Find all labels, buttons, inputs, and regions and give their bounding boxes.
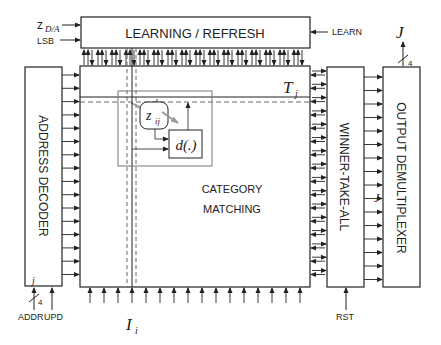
wta-demux-arrows (364, 77, 382, 280)
addr-label: ADDR (18, 312, 44, 322)
learning-refresh-label: LEARNING / REFRESH (125, 26, 264, 41)
rst-input: RST (336, 288, 355, 322)
addr-input: 4 ADDR (18, 288, 44, 322)
learning-bus (84, 50, 302, 65)
winner-take-all-label: WINNER-TAKE-ALL (337, 123, 351, 232)
upd-label: UPD (44, 312, 64, 322)
output-j: 4 J (396, 23, 413, 68)
addr-width-label: 4 (38, 298, 43, 307)
category-matching-array: CATEGORY MATCHING (80, 66, 310, 287)
input-arrows (90, 288, 300, 303)
output-width-label: 4 (408, 59, 413, 68)
upd-input: UPD (44, 288, 64, 322)
zda-label-sub: D/A (44, 24, 60, 34)
zda-input: z D/A (37, 18, 80, 34)
winner-take-all-block: WINNER-TAKE-ALL (327, 67, 364, 287)
learn-label: LEARN (332, 27, 362, 37)
address-decoder-label: ADDRESS DECODER (36, 115, 50, 237)
architecture-diagram: LEARNING / REFRESH z D/A LSB LEARN CATEG… (0, 0, 441, 345)
ii-sub: i (135, 325, 138, 336)
decoder-output-arrows (62, 75, 79, 275)
category-label: CATEGORY (202, 183, 263, 195)
rst-label: RST (336, 312, 355, 322)
zda-label-base: z (37, 18, 43, 32)
weight-cell-sub: ij (155, 116, 161, 126)
winner-j-label: J (374, 191, 380, 205)
ii-label: I (125, 315, 133, 334)
lsb-input: LSB (37, 36, 80, 46)
tj-label: T (283, 78, 294, 97)
array-wta-arrows (311, 71, 326, 275)
lsb-label: LSB (37, 36, 54, 46)
matching-label: MATCHING (203, 203, 261, 215)
weight-cell-label: z (145, 108, 152, 123)
address-decoder-block: ADDRESS DECODER j (25, 67, 62, 286)
distance-cell-label: d(.) (175, 137, 196, 154)
output-demultiplexer-block: OUTPUT DEMULTIPLEXER (383, 67, 420, 287)
output-j-label: J (396, 23, 405, 42)
learn-input: LEARN (311, 27, 362, 37)
learning-refresh-block: LEARNING / REFRESH (81, 17, 310, 48)
output-demultiplexer-label: OUTPUT DEMULTIPLEXER (394, 102, 408, 254)
